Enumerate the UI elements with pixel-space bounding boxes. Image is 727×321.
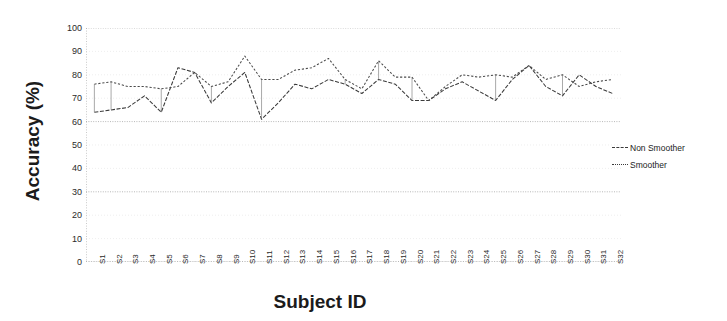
legend-item-non-smoother[interactable]: Non Smoother [612,139,724,156]
x-tick-s6: S6 [181,254,190,264]
x-tick-s24: S24 [482,250,491,264]
legend-item-smoother[interactable]: Smoother [612,156,724,173]
y-tick-10: 10 [48,234,82,244]
y-tick-90: 90 [48,46,82,56]
x-tick-s15: S15 [332,250,341,264]
y-tick-60: 60 [48,117,82,127]
x-tick-s16: S16 [349,250,358,264]
x-tick-s11: S11 [265,250,274,264]
legend-swatch-icon [612,164,628,166]
y-tick-80: 80 [48,70,82,80]
y-tick-0: 0 [48,257,82,267]
x-tick-s20: S20 [416,250,425,264]
x-axis-tick-labels: S1S2S3S4S5S6S7S8S9S10S11S12S13S14S15S16S… [86,264,621,294]
y-tick-70: 70 [48,93,82,103]
y-tick-100: 100 [48,23,82,33]
legend-swatch-icon [612,147,628,149]
y-axis-title: Accuracy (%) [22,46,44,236]
series-line-non-smoother [94,65,612,119]
x-tick-s25: S25 [499,250,508,264]
x-tick-s13: S13 [298,250,307,264]
x-tick-s8: S8 [215,254,224,264]
x-tick-s9: S9 [232,254,241,264]
y-axis-tick-labels: 1009080706050403020100 [42,28,82,262]
x-tick-s1: S1 [98,254,107,264]
x-tick-s29: S29 [566,250,575,264]
x-tick-s7: S7 [198,254,207,264]
x-tick-s26: S26 [516,250,525,264]
x-tick-s5: S5 [165,254,174,264]
series-line-smoother [94,56,612,100]
x-tick-s19: S19 [399,250,408,264]
x-tick-s14: S14 [315,250,324,264]
chart-legend: Non SmootherSmoother [612,139,724,173]
y-tick-40: 40 [48,163,82,173]
x-tick-s2: S2 [115,254,124,264]
accuracy-line-chart: Accuracy (%) 1009080706050403020100 S1S2… [0,0,727,321]
x-tick-s4: S4 [148,254,157,264]
y-tick-50: 50 [48,140,82,150]
x-tick-s31: S31 [599,250,608,264]
y-tick-20: 20 [48,210,82,220]
x-tick-s3: S3 [131,254,140,264]
x-tick-s12: S12 [282,250,291,264]
x-tick-s23: S23 [466,250,475,264]
x-tick-s22: S22 [449,250,458,264]
x-tick-s18: S18 [382,250,391,264]
x-tick-s27: S27 [533,250,542,264]
x-tick-s10: S10 [248,250,257,264]
x-tick-s21: S21 [432,250,441,264]
x-tick-s28: S28 [549,250,558,264]
legend-label: Smoother [630,160,667,170]
y-tick-30: 30 [48,187,82,197]
x-tick-s30: S30 [583,250,592,264]
x-tick-s32: S32 [616,250,625,264]
plot-svg [86,28,621,262]
x-tick-s17: S17 [365,250,374,264]
legend-label: Non Smoother [630,143,685,153]
plot-area [86,28,621,262]
x-axis-title: Subject ID [0,291,640,313]
